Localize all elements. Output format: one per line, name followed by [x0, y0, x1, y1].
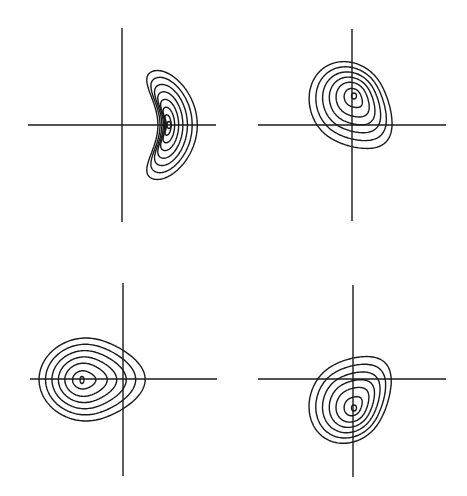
panel-bottom-left: [30, 283, 217, 476]
peak-marker: [352, 405, 357, 411]
contour-rings: [309, 62, 392, 149]
panel-bottom-right: [258, 285, 446, 477]
contour-rings: [309, 357, 391, 444]
panel-top-left: [28, 28, 216, 222]
contour-figure: [0, 0, 467, 496]
panel-top-right: [258, 29, 446, 221]
contour-line: [344, 88, 362, 107]
contour-line: [65, 363, 108, 396]
peak-marker: [80, 377, 84, 384]
